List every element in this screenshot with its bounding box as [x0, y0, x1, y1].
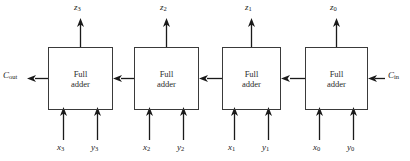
- full-adder-block-2-label: Full adder: [157, 69, 176, 89]
- adder-label-line1: Full: [245, 69, 259, 79]
- adder-label-line2: adder: [327, 79, 346, 89]
- full-adder-block-0[interactable]: Full adder: [305, 47, 368, 110]
- full-adder-block-2[interactable]: Full adder: [134, 47, 199, 110]
- full-adder-block-3-label: Full adder: [71, 69, 90, 89]
- input-label-y2: y2: [177, 142, 184, 152]
- input-label-y1: y1: [262, 142, 269, 152]
- input-wire-x3: [60, 107, 67, 140]
- adder-label-line1: Full: [330, 69, 344, 79]
- input-wire-y1: [265, 107, 272, 140]
- output-wire-z2: [163, 18, 170, 47]
- input-wire-y2: [180, 107, 187, 140]
- adder-label-line1: Full: [160, 69, 174, 79]
- full-adder-block-3[interactable]: Full adder: [48, 47, 113, 110]
- output-label-z3: z3: [74, 2, 81, 12]
- output-label-z0: z0: [330, 2, 337, 12]
- carry-out-label: Cout: [3, 70, 17, 80]
- input-label-y3: y3: [91, 142, 98, 152]
- carry-wire-in: [368, 75, 385, 82]
- adder-label-line2: adder: [157, 79, 176, 89]
- adder-label-line2: adder: [71, 79, 90, 89]
- input-wire-y0: [350, 107, 357, 140]
- input-wire-x0: [316, 107, 323, 140]
- adder-label-line2: adder: [242, 79, 261, 89]
- input-label-x0: x0: [313, 142, 320, 152]
- ripple-carry-adder-diagram: Full adder Full adder Full adder Full ad…: [0, 0, 410, 161]
- input-wire-y3: [94, 107, 101, 140]
- full-adder-block-0-label: Full adder: [327, 69, 346, 89]
- input-wire-x2: [146, 107, 153, 140]
- carry-wire-out: [27, 75, 48, 82]
- full-adder-block-1-label: Full adder: [242, 69, 261, 89]
- input-label-x2: x2: [143, 142, 150, 152]
- output-wire-z0: [333, 18, 340, 47]
- input-label-x3: x3: [57, 142, 64, 152]
- input-label-x1: x1: [228, 142, 235, 152]
- adder-label-line1: Full: [74, 69, 88, 79]
- carry-wire-2-to-1: [199, 75, 222, 82]
- output-wire-z1: [248, 18, 255, 47]
- carry-wire-1-to-0: [113, 75, 134, 82]
- carry-in-label: Cin: [388, 70, 399, 80]
- output-label-z2: z2: [160, 2, 167, 12]
- full-adder-block-1[interactable]: Full adder: [222, 47, 281, 110]
- output-wire-z3: [77, 18, 84, 47]
- input-label-y0: y0: [347, 142, 354, 152]
- carry-wire-3-to-2: [281, 75, 305, 82]
- input-wire-x1: [231, 107, 238, 140]
- output-label-z1: z1: [245, 2, 252, 12]
